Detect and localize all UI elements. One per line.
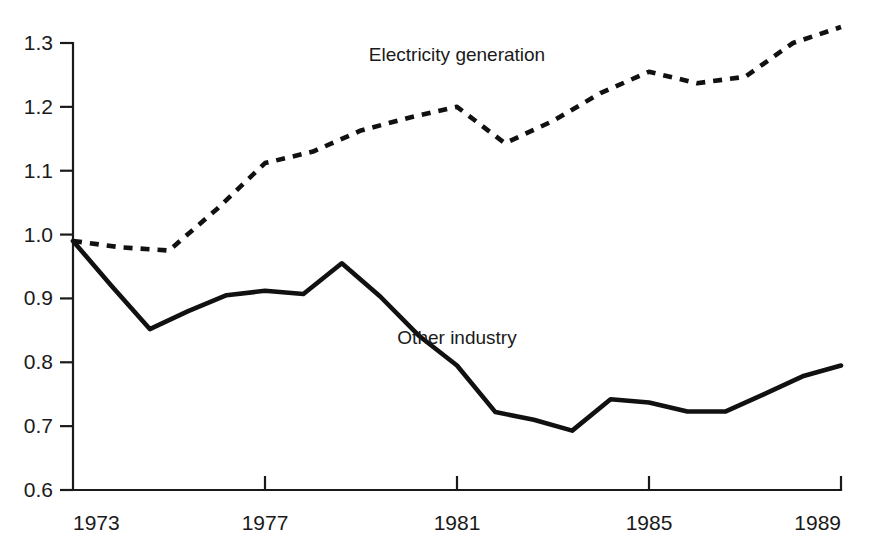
y-tick-label-0.6: 0.6 — [24, 478, 53, 501]
y-tick-label-1.2: 1.2 — [24, 95, 53, 118]
chart-figure: 0.60.70.80.91.01.11.21.3 197319771981198… — [0, 0, 885, 557]
x-tick-label-1981: 1981 — [434, 511, 481, 534]
series-label-electricity-generation: Electricity generation — [369, 44, 545, 65]
x-tick-label-1977: 1977 — [242, 511, 289, 534]
y-tick-label-0.8: 0.8 — [24, 350, 53, 373]
x-tick-label-1985: 1985 — [626, 511, 673, 534]
series-label-other-industry: Other industry — [397, 327, 517, 348]
x-tick-label-1989: 1989 — [794, 511, 841, 534]
x-tick-label-1973: 1973 — [73, 511, 120, 534]
y-tick-label-0.9: 0.9 — [24, 286, 53, 309]
y-tick-label-1.3: 1.3 — [24, 31, 53, 54]
y-tick-label-0.7: 0.7 — [24, 414, 53, 437]
chart-background — [0, 0, 885, 557]
y-tick-label-1.1: 1.1 — [24, 159, 53, 182]
line-chart-svg: 0.60.70.80.91.01.11.21.3 197319771981198… — [0, 0, 885, 557]
y-tick-label-1.0: 1.0 — [24, 223, 53, 246]
